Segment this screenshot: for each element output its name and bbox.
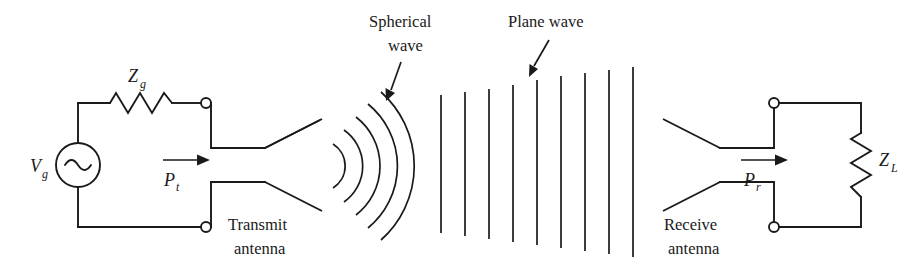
- source-voltage-subscript: g: [42, 167, 48, 181]
- load-impedance-label: Z: [879, 150, 890, 170]
- load-impedance-subscript: L: [890, 161, 898, 175]
- transmit-horn-upper: [265, 119, 322, 148]
- source-impedance-label: Z: [128, 66, 139, 86]
- spherical-wave-leader-head: [386, 88, 396, 101]
- receive-power-arrow: P r: [741, 155, 788, 195]
- transmit-antenna-label-line2: antenna: [234, 239, 286, 258]
- spherical-wave-annotation: Spherical wave: [369, 12, 432, 101]
- plane-wave-leader-shaft: [534, 40, 549, 66]
- spherical-wave-arcs: [333, 92, 414, 240]
- plane-wave-leader-head: [529, 64, 538, 77]
- transmit-power-subscript: t: [176, 180, 180, 194]
- transmit-terminal-bottom: [201, 222, 211, 232]
- transmit-terminal-top: [201, 98, 211, 108]
- spherical-arc-2: [344, 130, 363, 202]
- receive-power-label: P: [743, 170, 755, 190]
- load-bottom-wire: [779, 197, 861, 227]
- receive-arrow-head: [775, 155, 788, 166]
- transmit-feed-top: [211, 103, 265, 148]
- spherical-arc-3: [356, 117, 380, 215]
- transmit-antenna-caption: Transmit antenna: [228, 215, 287, 258]
- receive-antenna-label-line2: antenna: [668, 239, 720, 258]
- receive-horn-upper: [663, 119, 720, 148]
- receive-terminal-bottom: [769, 222, 779, 232]
- transmit-arrow-head: [197, 155, 210, 166]
- receive-power-subscript: r: [756, 180, 761, 194]
- transmit-power-arrow: P t: [163, 155, 210, 195]
- plane-wave-lines: [441, 67, 633, 257]
- load-top-wire: [779, 103, 861, 133]
- source-impedance-resistor-icon: [110, 93, 172, 113]
- receive-antenna-caption: Receive antenna: [664, 215, 720, 258]
- load-impedance-resistor-icon: [851, 133, 871, 197]
- receive-terminal-top: [769, 98, 779, 108]
- transmit-horn-lower: [265, 182, 322, 211]
- figure-canvas: P t V g Z g Transmit antenna Spherica: [0, 0, 908, 268]
- receive-feed-top: [720, 103, 774, 148]
- transmit-circuit: [56, 93, 322, 232]
- transmit-antenna-label-line1: Transmit: [228, 215, 287, 234]
- spherical-wave-label-line1: Spherical: [369, 12, 432, 31]
- ac-source-symbol: [56, 143, 100, 187]
- plane-wave-label: Plane wave: [508, 12, 584, 31]
- source-voltage-label-group: V g: [30, 156, 48, 181]
- antenna-link-diagram: P t V g Z g Transmit antenna Spherica: [0, 0, 908, 268]
- spherical-wave-label-line2: wave: [388, 36, 423, 55]
- source-impedance-label-group: Z g: [128, 66, 146, 91]
- plane-wave-annotation: Plane wave: [508, 12, 584, 77]
- receive-horn-lower: [663, 182, 720, 211]
- source-impedance-subscript: g: [140, 77, 146, 91]
- receive-circuit: [663, 98, 871, 232]
- load-impedance-label-group: Z L: [879, 150, 898, 175]
- receive-antenna-label-line1: Receive: [664, 215, 717, 234]
- spherical-arc-4: [368, 104, 397, 228]
- transmit-power-label: P: [163, 170, 175, 190]
- spherical-arc-1: [333, 144, 345, 188]
- spherical-wave-leader-shaft: [391, 62, 401, 90]
